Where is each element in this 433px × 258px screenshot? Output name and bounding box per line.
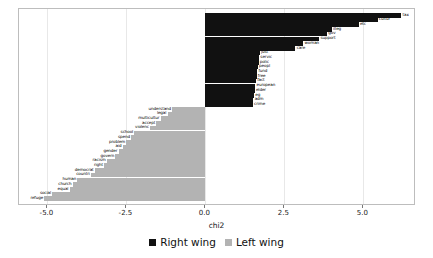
x-tick-label: 0.0 [199,209,210,217]
x-tick-label: -5.0 [40,209,54,217]
bar-crime [205,102,252,107]
gridline-vertical [363,9,364,204]
x-tick-mark [204,205,205,208]
x-tick-label: 5.0 [357,209,368,217]
bar-label-woman: woman [305,41,319,46]
x-axis: -5.0-2.50.02.55.0 [18,205,415,221]
x-tick-mark [362,205,363,208]
legend-item-left-wing[interactable]: Left wing [225,236,284,248]
bar-label-equal: equal [58,187,69,192]
bar-label-refuge: refuge [30,196,43,201]
legend-swatch-right-wing-icon [149,239,156,246]
plot-area: taxculturetcilleggovsupportwomancarejust… [18,8,415,205]
gridline-vertical [47,9,48,204]
legend-item-right-wing[interactable]: Right wing [149,236,216,248]
bar-label-tax: tax [403,13,409,18]
legend-swatch-left-wing-icon [225,239,232,246]
legend-label-left-wing: Left wing [236,236,284,248]
x-tick-mark [125,205,126,208]
legend-label-right-wing: Right wing [160,236,216,248]
x-tick-mark [46,205,47,208]
x-tick-label: -2.5 [119,209,133,217]
x-tick-mark [283,205,284,208]
bar-refuge [44,196,205,201]
x-axis-title: chi2 [0,221,433,230]
chart-root: taxculturetcilleggovsupportwomancarejust… [0,0,433,258]
bar-label-violenc: violenc [135,125,149,130]
chart-legend: Right wing Left wing [0,236,433,248]
x-tick-label: 2.5 [278,209,289,217]
bar-label-cultur: cultur [379,17,390,22]
bar-label-right: right [94,163,103,168]
bar-label-crime: crime [254,102,265,107]
bar-label-support: support [320,36,335,41]
bar-label-countri: countri [76,172,90,177]
bar-label-care: care [297,46,305,51]
bar-label-etc: etc [360,22,366,27]
